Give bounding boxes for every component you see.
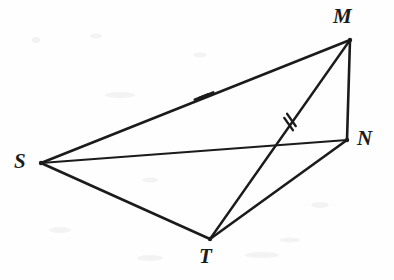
vertex-dot-n <box>345 138 349 142</box>
segment-sm <box>41 40 350 163</box>
tick-MT <box>284 114 296 130</box>
tick-mark-layer <box>195 92 296 130</box>
vertex-label-m: M <box>333 6 352 27</box>
vertex-dot-s <box>39 161 43 165</box>
paper-speckle <box>105 92 135 98</box>
vertex-dot-t <box>208 237 212 241</box>
paper-speckle <box>137 255 163 261</box>
segment-mn <box>347 40 350 140</box>
paper-speckle <box>49 227 71 233</box>
paper-speckle <box>142 178 158 183</box>
paper-speckle <box>193 53 207 58</box>
geometry-diagram-canvas <box>0 0 394 280</box>
paper-speckle <box>32 37 41 43</box>
paper-speckle <box>280 238 300 243</box>
paper-speckle <box>311 202 329 208</box>
vertex-label-n: N <box>357 128 372 149</box>
vertex-label-t: T <box>199 246 212 267</box>
vertex-label-s: S <box>14 151 26 172</box>
vertex-dot-m <box>348 38 352 42</box>
vertex-dot-layer <box>39 38 352 241</box>
paper-speckle <box>90 34 102 39</box>
segment-layer <box>41 40 350 239</box>
segment-nt <box>210 140 347 239</box>
segment-mt <box>210 40 350 239</box>
paper-speckle <box>245 252 279 258</box>
geometry-figure: SMNT <box>0 0 394 280</box>
